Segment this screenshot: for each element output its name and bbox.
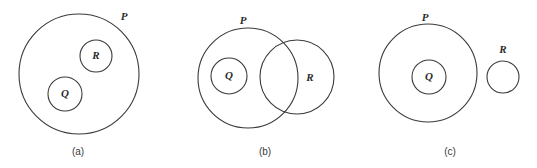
label-p-panel-a: P [121,10,128,22]
label-q-panel-c: Q [425,70,433,82]
panel-b: P R Q (b) [198,14,334,157]
caption-panel-a: (a) [72,146,84,157]
label-r-panel-c: R [498,43,506,55]
panel-a: P R Q (a) [19,10,139,157]
caption-panel-b: (b) [259,146,271,157]
circle-p-panel-a [19,14,139,134]
circle-r-panel-c [487,61,519,93]
label-q-panel-a: Q [61,87,69,99]
label-q-panel-b: Q [225,69,233,81]
label-r-panel-b: R [305,71,313,83]
label-r-panel-a: R [91,49,99,61]
venn-figure: P R Q (a) P R Q (b) P Q R (c) [0,0,537,168]
circle-r-panel-b [260,40,334,114]
caption-panel-c: (c) [444,146,456,157]
panel-c: P Q R (c) [379,11,519,157]
label-p-panel-b: P [240,14,247,26]
label-p-panel-c: P [422,11,429,23]
venn-diagram-canvas: P R Q (a) P R Q (b) P Q R (c) [0,0,537,168]
